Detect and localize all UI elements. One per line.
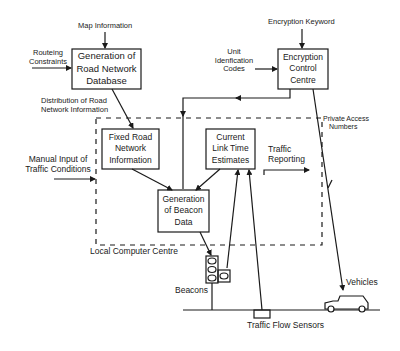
- label-manual-input: Manual Input of Traffic Conditions: [18, 155, 98, 175]
- box-line: Fixed Road: [109, 132, 152, 143]
- box-line: Road Network: [76, 63, 136, 75]
- label-line: Network Information: [41, 106, 108, 115]
- box-line: Information: [109, 155, 152, 166]
- box-link-time: Current Link Time Estimates: [206, 129, 255, 169]
- box-line: Data: [162, 217, 204, 228]
- label-encryption-keyword: Encryption Keyword: [268, 18, 335, 27]
- label-line: Private Access: [323, 115, 369, 123]
- label-line: Reporting: [268, 155, 305, 165]
- label-map-information: Map Information: [78, 22, 132, 31]
- box-line: Generation: [162, 194, 204, 205]
- label-line: Traffic Conditions: [18, 165, 98, 175]
- box-encryption-centre: Encryption Control Centre: [278, 49, 328, 89]
- label-traffic-reporting: Traffic Reporting: [268, 145, 305, 165]
- label-private-access-numbers: Private Access Numbers: [323, 115, 369, 131]
- box-fixed-road-info: Fixed Road Network Information: [102, 129, 159, 169]
- box-line: Control: [283, 63, 323, 74]
- box-line: Encryption: [283, 52, 323, 63]
- label-routeing-constraints: Routeing Constraints: [24, 49, 72, 66]
- label-line: Numbers: [323, 123, 369, 131]
- box-line: Estimates: [212, 155, 249, 166]
- box-line: Centre: [283, 75, 323, 86]
- box-line: Current: [212, 132, 249, 143]
- label-distribution: Distribution of Road Network Information: [41, 97, 108, 114]
- box-line: Network: [109, 143, 152, 154]
- box-line: Link Time: [212, 143, 249, 154]
- box-line: Generation of: [76, 50, 136, 62]
- label-vehicles: Vehicles: [346, 278, 378, 288]
- box-line: Database: [76, 75, 136, 87]
- diagram-canvas: Generation of Road Network Database Fixe…: [0, 0, 400, 351]
- label-line: Codes: [210, 65, 258, 74]
- label-local-computer-centre: Local Computer Centre: [90, 247, 178, 257]
- box-beacon-data: Generation of Beacon Data: [158, 190, 209, 232]
- box-line: of Beacon: [162, 205, 204, 216]
- sensor-box: [254, 310, 270, 318]
- box-road-network-db: Generation of Road Network Database: [72, 49, 141, 89]
- label-line: Constraints: [24, 58, 72, 67]
- label-unit-identification-codes: Unit Idenfication Codes: [210, 48, 258, 74]
- label-beacons: Beacons: [175, 286, 208, 296]
- label-traffic-flow-sensors: Traffic Flow Sensors: [247, 321, 324, 331]
